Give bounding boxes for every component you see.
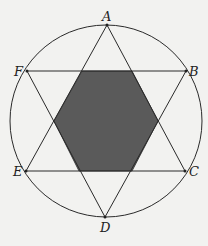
label-c: C: [189, 164, 199, 179]
label-b: B: [188, 64, 199, 79]
label-a: A: [101, 9, 111, 24]
point-f: [26, 70, 29, 73]
point-d: [104, 216, 107, 219]
label-e: E: [12, 164, 23, 179]
label-d: D: [99, 220, 111, 235]
label-f: F: [13, 64, 24, 79]
geometry-diagram: A B C D E F: [0, 0, 208, 246]
point-e: [25, 170, 28, 173]
point-c: [184, 170, 187, 173]
shaded-hexagon: [54, 71, 158, 171]
point-b: [185, 70, 188, 73]
